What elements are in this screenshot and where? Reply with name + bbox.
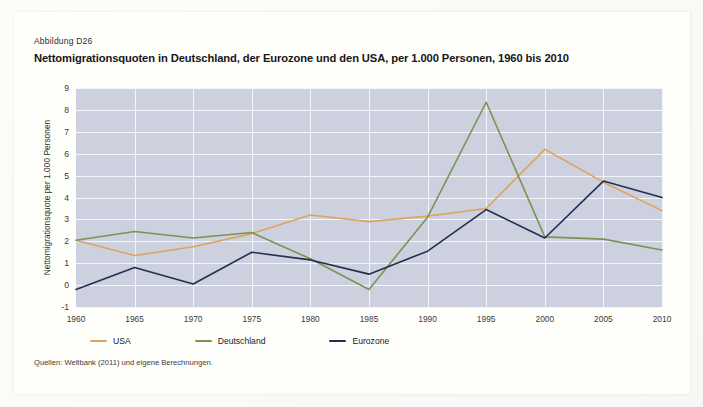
x-axis-tick-label: 1960 — [67, 314, 86, 324]
series-line-usa — [76, 149, 662, 255]
y-axis-tick-label: -1 — [61, 302, 69, 312]
x-axis-tick-label: 1995 — [477, 314, 496, 324]
x-axis-tick-label: 1980 — [301, 314, 320, 324]
x-axis-tick-label: 2010 — [653, 314, 672, 324]
legend-label: Eurozone — [352, 336, 389, 346]
chart-series-svg — [76, 88, 662, 307]
y-axis-tick-label: 1 — [64, 258, 69, 268]
legend-item-deutschland[interactable]: Deutschland — [195, 336, 266, 346]
x-axis-tick-label: 1975 — [242, 314, 261, 324]
y-axis-tick-label: 4 — [64, 193, 69, 203]
figure-title: Nettomigrationsquoten in Deutschland, de… — [34, 52, 569, 64]
chart-plot-wrapper: -101234567891960196519701975198019851990… — [76, 88, 662, 307]
y-axis-tick-label: 0 — [64, 280, 69, 290]
legend-swatch-icon — [329, 340, 346, 342]
x-axis-tick-label: 1970 — [184, 314, 203, 324]
x-axis-tick-label: 2000 — [535, 314, 554, 324]
y-axis-tick-label: 9 — [64, 83, 69, 93]
x-axis-tick-label: 1965 — [125, 314, 144, 324]
legend-label: USA — [113, 336, 131, 346]
series-line-deutschland — [76, 102, 662, 289]
x-axis-tick-label: 1990 — [418, 314, 437, 324]
y-axis-tick-label: 6 — [64, 149, 69, 159]
y-axis-tick-label: 7 — [64, 127, 69, 137]
figure-page: Abbildung D26 Nettomigrationsquoten in D… — [0, 0, 703, 407]
gridline-horizontal — [76, 307, 662, 308]
legend-item-usa[interactable]: USA — [90, 336, 131, 346]
x-axis-tick-label: 2005 — [594, 314, 613, 324]
chart-legend: USADeutschlandEurozone — [90, 336, 389, 346]
y-axis-tick-label: 8 — [64, 105, 69, 115]
y-axis-tick-label: 2 — [64, 236, 69, 246]
y-axis-title: Nettomigrationsquote per 1.000 Personen — [40, 88, 54, 307]
source-note: Quellen: Weltbank (2011) und eigene Bere… — [34, 358, 213, 367]
legend-item-eurozone[interactable]: Eurozone — [329, 336, 389, 346]
legend-swatch-icon — [90, 340, 107, 342]
legend-swatch-icon — [195, 340, 212, 342]
y-axis-tick-label: 3 — [64, 214, 69, 224]
y-axis-tick-label: 5 — [64, 171, 69, 181]
legend-label: Deutschland — [218, 336, 266, 346]
x-axis-tick-label: 1985 — [360, 314, 379, 324]
figure-label: Abbildung D26 — [34, 36, 92, 46]
